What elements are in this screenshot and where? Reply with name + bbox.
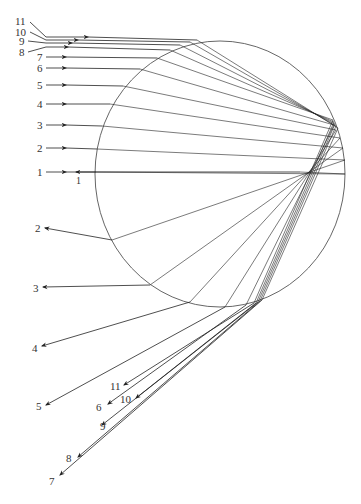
outgoing-rays <box>42 172 300 475</box>
refracted-rays <box>96 40 345 174</box>
outgoing-ray-7 <box>60 300 262 475</box>
raindrop-ray-diagram <box>0 0 361 504</box>
outgoing-ray-2 <box>45 228 112 240</box>
incoming-label-4: 4 <box>37 99 43 110</box>
outgoing-label-4: 4 <box>32 343 38 354</box>
outgoing-ray-3 <box>43 285 150 287</box>
outgoing-label-8: 8 <box>66 453 72 464</box>
incoming-label-6: 6 <box>37 63 43 74</box>
incoming-label-3: 3 <box>37 120 43 131</box>
droplet-circle <box>95 41 345 307</box>
outgoing-label-1: 1 <box>76 176 81 186</box>
outgoing-ray-5 <box>46 307 225 405</box>
outgoing-label-7: 7 <box>49 476 55 487</box>
outgoing-label-3: 3 <box>33 283 39 294</box>
outgoing-ray-8 <box>78 301 260 457</box>
outgoing-ray-4 <box>42 302 190 346</box>
outgoing-label-9: 9 <box>100 421 106 432</box>
outgoing-label-11: 11 <box>110 381 121 392</box>
incoming-label-8: 8 <box>19 47 25 58</box>
incoming-label-5: 5 <box>37 80 43 91</box>
incoming-label-2: 2 <box>37 143 43 154</box>
reflected-rays <box>112 120 345 307</box>
outgoing-label-6: 6 <box>96 402 102 413</box>
outgoing-ray-11 <box>124 303 254 385</box>
incoming-label-1: 1 <box>37 167 43 178</box>
outgoing-label-5: 5 <box>36 401 42 412</box>
outgoing-label-2: 2 <box>35 223 41 234</box>
outgoing-ray-10 <box>136 303 256 398</box>
outgoing-label-10: 10 <box>120 394 131 405</box>
